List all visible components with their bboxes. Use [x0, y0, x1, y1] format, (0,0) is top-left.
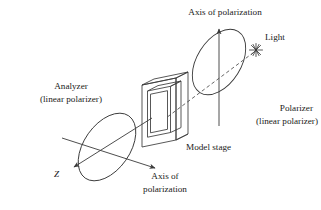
label-light: Light [265, 33, 285, 43]
label-polarizer-sub: (linear polarizer) [256, 117, 318, 127]
label-analyzer-sub: (linear polarizer) [40, 95, 102, 105]
bottom-polarization-axis-arrow [62, 138, 155, 168]
label-axis-of-polarization-top: Axis of polarization [188, 8, 261, 18]
label-axis-of-polarization-bottom-line2: polarization [143, 185, 187, 195]
label-polarizer-name: Polarizer [280, 104, 313, 114]
label-z-axis: Z [54, 170, 59, 180]
light-star-core [255, 49, 257, 51]
z-axis-arrow [74, 118, 152, 167]
label-model-stage: Model stage [186, 143, 231, 153]
light-ray [166, 53, 254, 119]
model-stage [142, 72, 188, 147]
label-analyzer-name: Analyzer [54, 82, 88, 92]
label-axis-of-polarization-bottom-line1: Axis of [151, 172, 178, 182]
analyzer-ellipse [66, 103, 147, 192]
polariscope-diagram: Axis of polarization Light Polarizer (li… [0, 0, 321, 210]
